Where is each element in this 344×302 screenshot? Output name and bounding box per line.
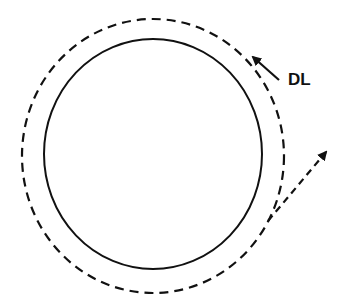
- diagram-canvas: DL: [0, 0, 344, 302]
- outer-dashed-circle: [22, 19, 284, 293]
- dl-label: DL: [288, 70, 311, 89]
- inner-solid-circle: [44, 39, 262, 269]
- tangent-dashed-arrow: [268, 152, 326, 221]
- dl-arrow: [253, 57, 279, 80]
